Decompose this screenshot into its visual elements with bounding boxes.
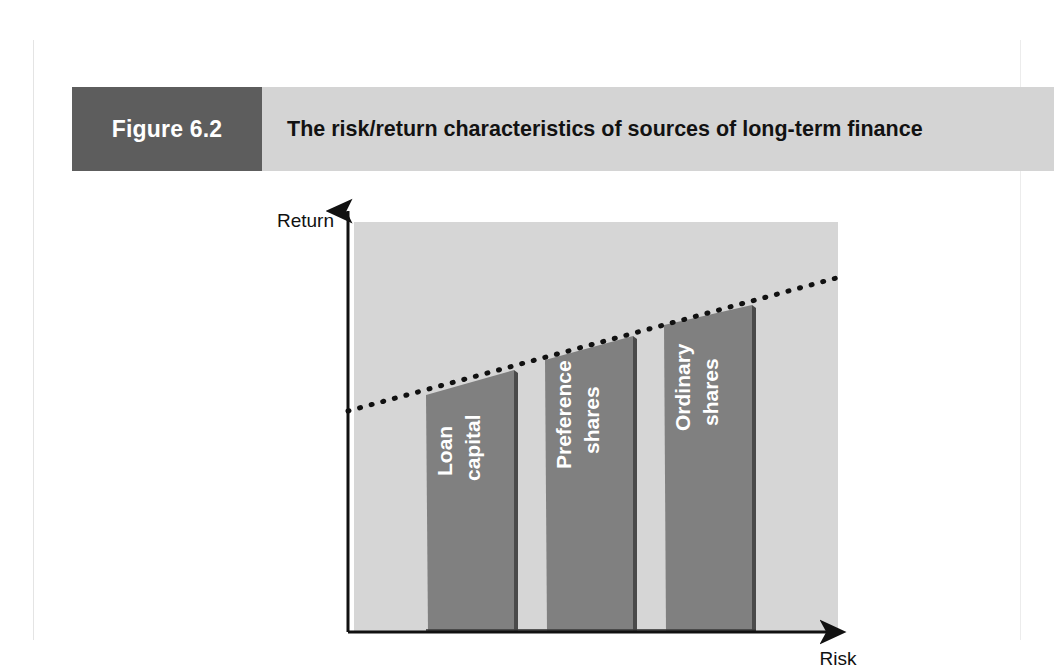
risk-return-chart: Ordinary shares Preference shares Loan c… [72,171,1054,669]
x-axis-label: Risk [820,648,857,669]
figure-title: The risk/return characteristics of sourc… [287,116,923,143]
bar-ordinary-shares[interactable]: Ordinary shares [664,305,756,632]
bar-preference-shares-label-line2: shares [580,386,603,454]
bar-preference-shares-edge [633,336,637,632]
bar-ordinary-shares-label-line2: shares [699,358,722,426]
figure-header-band: Figure 6.2 The risk/return characteristi… [72,87,1054,171]
bar-ordinary-shares-edge [752,305,756,632]
bar-preference-shares[interactable]: Preference shares [545,336,637,632]
figure-frame: Figure 6.2 The risk/return characteristi… [33,40,1021,640]
bar-loan-capital-shape[interactable] [426,370,514,631]
figure-number-label: Figure 6.2 [112,116,223,143]
bar-loan-capital-label-line2: capital [461,414,484,481]
chart-canvas: Ordinary shares Preference shares Loan c… [72,171,1054,669]
bar-loan-capital[interactable]: Loan capital [426,370,518,632]
y-axis-label: Return [277,210,334,231]
bar-ordinary-shares-label-line1: Ordinary [671,343,694,431]
figure-number-block: Figure 6.2 [72,87,262,171]
bar-loan-capital-edge [514,370,518,632]
bar-loan-capital-label-line1: Loan [433,426,456,476]
figure-title-block: The risk/return characteristics of sourc… [262,87,1054,171]
bar-preference-shares-label-line1: Preference [552,360,575,469]
